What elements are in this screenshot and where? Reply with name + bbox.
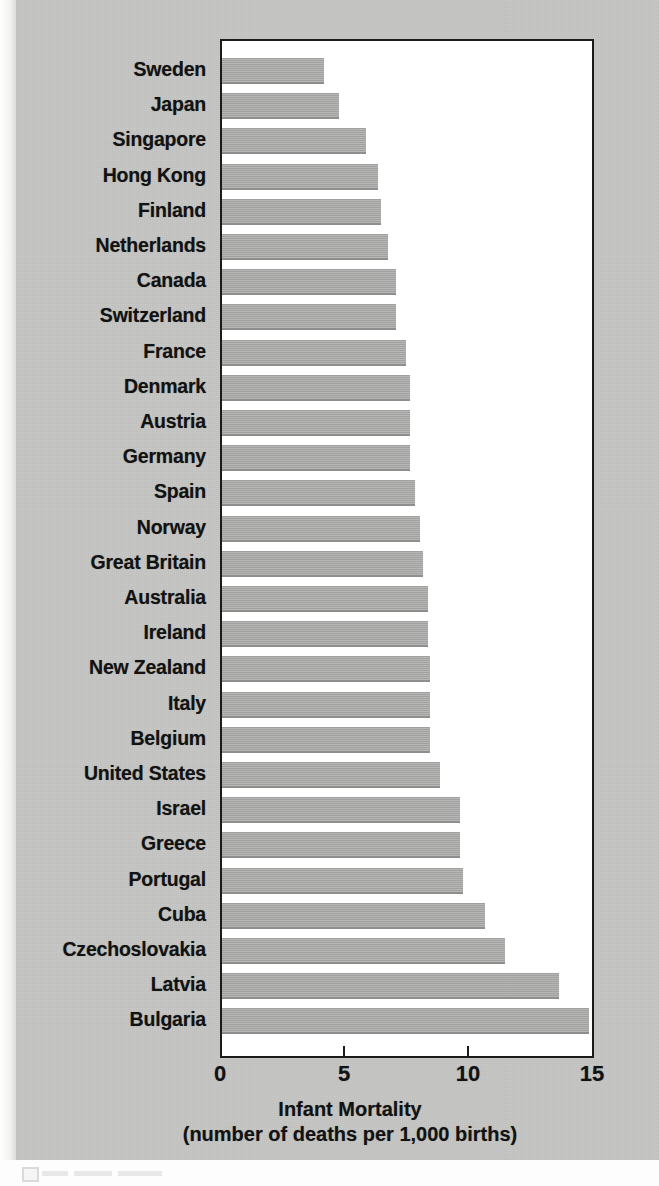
bar-fill <box>222 340 406 366</box>
axis-title-line2: (number of deaths per 1,000 births) <box>150 1122 550 1147</box>
axis-tick-label: 5 <box>338 1061 350 1087</box>
category-label: Czechoslovakia <box>62 936 206 962</box>
category-label: Sweden <box>134 56 207 82</box>
category-label: Great Britain <box>90 549 206 575</box>
bar-fill <box>222 762 440 788</box>
caption-text-fragment <box>42 1171 162 1176</box>
category-label: Belgium <box>130 725 206 751</box>
bar-fill <box>222 903 485 929</box>
axis-tick <box>467 1046 469 1058</box>
bar-fill <box>222 1008 589 1034</box>
category-label: Italy <box>168 690 206 716</box>
category-label: Latvia <box>151 971 206 997</box>
category-axis-labels: SwedenJapanSingaporeHong KongFinlandNeth… <box>0 39 214 1058</box>
category-label: Cuba <box>158 901 206 927</box>
axis-tick-label: 10 <box>456 1061 480 1087</box>
caption-marker-icon <box>22 1167 39 1182</box>
bar-fill <box>222 551 423 577</box>
bar-fill <box>222 973 559 999</box>
category-label: Germany <box>123 443 206 469</box>
bar-fill <box>222 938 505 964</box>
category-label: Denmark <box>124 373 206 399</box>
bar-fill <box>222 797 460 823</box>
bar-fill <box>222 692 430 718</box>
category-label: France <box>143 338 206 364</box>
category-label: Japan <box>151 91 206 117</box>
category-label: Australia <box>124 584 206 610</box>
axis-title-line1: Infant Mortality <box>278 1098 421 1120</box>
category-label: Canada <box>137 267 206 293</box>
value-axis: 051015 <box>220 1058 594 1098</box>
category-label: Finland <box>138 197 206 223</box>
bar-fill <box>222 480 415 506</box>
bar-fill <box>222 128 366 154</box>
axis-tick <box>343 1046 345 1058</box>
bar-fill <box>222 586 428 612</box>
bar-fill <box>222 164 378 190</box>
category-label: Austria <box>140 408 206 434</box>
bar-fill <box>222 199 381 225</box>
bar-fill <box>222 269 396 295</box>
figure-caption-fragment <box>22 1166 172 1180</box>
bar-fill <box>222 727 430 753</box>
bar-fill <box>222 410 410 436</box>
bar-fill <box>222 832 460 858</box>
scanned-page: SwedenJapanSingaporeHong KongFinlandNeth… <box>0 0 659 1186</box>
bar-fill <box>222 58 324 84</box>
bar-fill <box>222 375 410 401</box>
bar-fill <box>222 304 396 330</box>
category-label: United States <box>84 760 206 786</box>
category-label: Bulgaria <box>130 1006 206 1032</box>
axis-tick-label: 0 <box>214 1061 226 1087</box>
plot-area <box>220 39 594 1058</box>
bar-fill <box>222 516 420 542</box>
bar-fill <box>222 234 388 260</box>
bar-fill <box>222 868 463 894</box>
category-label: Singapore <box>112 126 206 152</box>
category-label: Spain <box>154 478 206 504</box>
axis-tick-label: 15 <box>580 1061 604 1087</box>
category-label: Israel <box>156 795 206 821</box>
bar-fill <box>222 93 339 119</box>
bar-fill <box>222 621 428 647</box>
bar-fill <box>222 445 410 471</box>
category-label: New Zealand <box>89 654 206 680</box>
category-label: Portugal <box>129 866 207 892</box>
bar-fill <box>222 656 430 682</box>
category-label: Netherlands <box>96 232 207 258</box>
category-label: Switzerland <box>100 302 206 328</box>
category-label: Hong Kong <box>103 162 206 188</box>
axis-title: Infant Mortality (number of deaths per 1… <box>150 1097 550 1147</box>
category-label: Norway <box>137 514 206 540</box>
category-label: Ireland <box>143 619 206 645</box>
category-label: Greece <box>141 830 206 856</box>
